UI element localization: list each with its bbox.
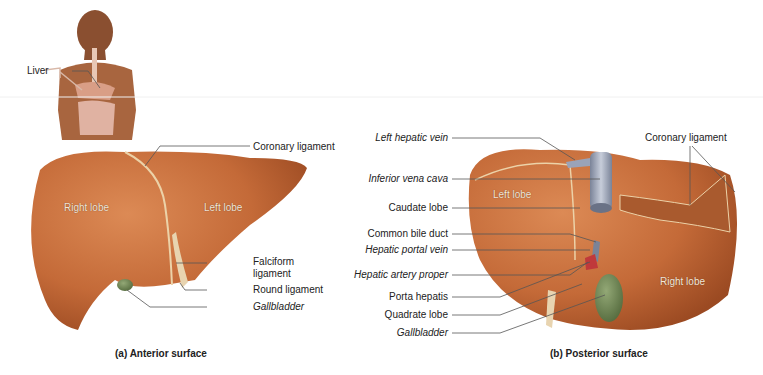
label-porta-hepatis: Porta hepatis — [389, 291, 448, 303]
caption-anterior: (a) Anterior surface — [115, 348, 207, 359]
posterior-left-lobe-label: Left lobe — [493, 189, 531, 200]
label-caudate-lobe: Caudate lobe — [389, 202, 449, 214]
label-round-ligament: Round ligament — [253, 284, 323, 296]
label-inferior-vena-cava: Inferior vena cava — [369, 173, 449, 185]
label-gallbladder-posterior: Gallbladder — [397, 327, 448, 339]
label-gallbladder-anterior: Gallbladder — [253, 301, 304, 313]
liver-illustration — [0, 0, 763, 375]
anterior-left-lobe-label: Left lobe — [204, 202, 242, 213]
label-hepatic-portal-vein: Hepatic portal vein — [365, 244, 448, 256]
label-liver: Liver — [27, 65, 49, 77]
label-left-hepatic-vein: Left hepatic vein — [375, 132, 448, 144]
posterior-right-lobe-label: Right lobe — [660, 276, 705, 287]
label-falciform-line2: ligament — [253, 268, 291, 280]
label-hepatic-artery-proper: Hepatic artery proper — [354, 269, 448, 281]
label-coronary-ligament-anterior: Coronary ligament — [253, 141, 335, 153]
anterior-right-lobe-label: Right lobe — [64, 202, 109, 213]
label-common-bile-duct: Common bile duct — [367, 228, 448, 240]
label-quadrate-lobe: Quadrate lobe — [385, 309, 448, 321]
caption-posterior: (b) Posterior surface — [550, 348, 648, 359]
label-coronary-ligament-posterior: Coronary ligament — [645, 132, 727, 144]
label-falciform-line1: Falciform — [253, 256, 294, 268]
posterior-liver — [469, 149, 737, 330]
